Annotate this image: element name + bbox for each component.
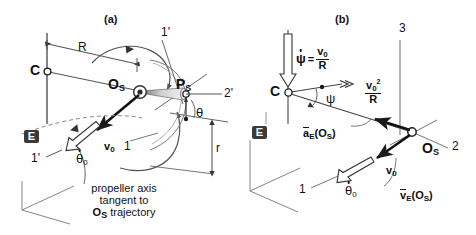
formula-psi-dot-eq: =: [306, 53, 316, 65]
thetadot0-b-sub: 0: [352, 190, 356, 199]
vector-a-arg: O: [318, 127, 327, 139]
point-label-Os-a-sub: S: [119, 83, 125, 93]
formula-psi-dot-fraction: v0R: [316, 46, 329, 71]
panel-a-title: (a): [104, 14, 117, 25]
caption-Os-main: O: [93, 206, 102, 218]
accel-vector-arrow-b: [375, 119, 410, 130]
psi-dot-hollow-arrow-b: [280, 34, 296, 87]
axis-1-leader-a: [130, 133, 158, 141]
trajectory-dashed-arc: [22, 116, 142, 134]
formula-psi-dot-num: v0: [316, 46, 329, 60]
axis-label-3-b: 3: [399, 22, 406, 34]
velocity-label-thetadot0-a: θ0: [76, 150, 88, 167]
dimension-label-r: r: [216, 142, 220, 154]
arm-line-C-Os: [49, 72, 140, 91]
point-label-C-a: C: [30, 63, 40, 77]
angle-label-psi: ψ: [326, 92, 335, 105]
point-label-Os-a-main: O: [108, 76, 119, 92]
caption-line-2: tangent to: [100, 194, 149, 206]
psi-ray-dot: [320, 85, 324, 89]
formula-centripetal-accel: v02R: [365, 78, 381, 105]
reference-frame-badge-E-a: E: [24, 130, 39, 143]
axis-label-2prime: 2': [224, 87, 233, 99]
formula-accel-den: R: [365, 94, 381, 105]
velocity-vector-arrow-b: [377, 135, 410, 158]
vector-v-arg: O: [415, 189, 424, 201]
point-label-Os-a: OS: [108, 76, 125, 93]
velocity-label-v0-a-sub: 0: [110, 145, 114, 154]
point-label-Os-b-sub: S: [433, 147, 439, 157]
formula-psi-dot-den: R: [316, 60, 329, 71]
formula-psi-dot-num-sub: 0: [323, 50, 327, 59]
axis-label-1prime: 1': [31, 152, 40, 164]
theta-dot-0-hollow-arrow-a: [66, 122, 100, 151]
velocity-label-thetadot0-b: θ0: [345, 182, 357, 199]
figure-canvas: (a) C R OS PS 1' 2' 1 1' θ r v0 θ0 E pro…: [0, 0, 476, 235]
formula-accel-num: v02: [365, 78, 381, 94]
axis-label-3prime: 1': [161, 26, 170, 38]
thetadot0-a-main: θ: [76, 152, 83, 165]
point-Os-inner-a: [137, 89, 142, 94]
formula-psi-dot-lhs: ψ: [296, 52, 306, 65]
caption-line-1: propeller axis: [91, 182, 156, 194]
point-label-Ps-main: P: [176, 76, 185, 92]
formula-accel-fraction: v02R: [365, 78, 381, 105]
formula-accel-num-sub: 0: [372, 84, 376, 93]
axis-label-1-a: 1: [124, 140, 131, 152]
point-label-Os-b-main: O: [422, 140, 433, 156]
thetadot0-b-main: θ: [345, 184, 352, 197]
accel-label-leader-b: [351, 119, 371, 126]
ground-line-b-3: [250, 168, 300, 191]
axis-1prime-leader: [46, 150, 62, 157]
point-label-Os-b: OS: [422, 140, 439, 157]
velocity-label-v0-b: v0: [386, 161, 397, 178]
velocity-v0-arrow-a: [97, 95, 139, 130]
velocity-label-v0-a: v0: [104, 137, 115, 154]
r-leader-bottom: [150, 166, 214, 174]
axis-label-2-b: 2: [452, 140, 459, 152]
velocity-label-v0-b-sub: 0: [392, 169, 396, 178]
vector-label-v-E-Os: vE(OS): [400, 186, 433, 203]
angle-label-theta: θ: [196, 106, 203, 119]
thetadot0-a-sub: 0: [83, 158, 87, 167]
psi-arc-b: [313, 89, 317, 105]
theta-arc: [191, 100, 195, 118]
vector-a-paren-close: ): [332, 127, 336, 139]
vector-label-a-E-Os: aE(OS): [303, 124, 336, 141]
axis-label-1-b: 1: [299, 183, 306, 195]
point-C-node-a: [44, 68, 51, 75]
point-label-Ps: PS: [176, 76, 191, 93]
caption-trajectory: trajectory: [107, 206, 155, 218]
point-C-node-b: [285, 89, 292, 96]
point-label-C-b: C: [270, 84, 280, 98]
propeller-axis-caption: propeller axis tangent to OS trajectory: [64, 183, 184, 220]
panel-b-title: (b): [335, 14, 349, 25]
formula-accel-num-sup: 2: [377, 78, 381, 85]
vector-v-paren-close: ): [429, 189, 433, 201]
point-label-Ps-sub: S: [185, 83, 191, 93]
theta-dot-0-hollow-arrow-b: [337, 157, 374, 183]
formula-psi-dot: ψ=v0R: [296, 46, 329, 71]
ground-line-a-3: [22, 210, 70, 224]
reference-frame-badge-E-b: E: [252, 126, 267, 139]
theta-vertex-dot: [184, 117, 188, 121]
ground-line-b-4: [250, 191, 298, 212]
dimension-label-R: R: [78, 41, 87, 53]
